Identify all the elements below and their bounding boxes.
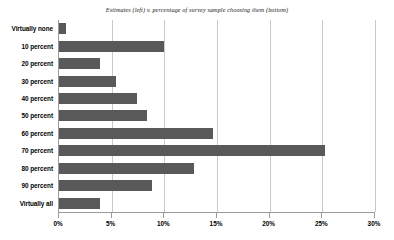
x-axis-tick (321, 213, 322, 218)
x-axis-tick (163, 213, 164, 218)
x-axis-label: 0% (43, 220, 73, 227)
y-axis-label: Virtually all (0, 195, 53, 212)
y-axis-label: 80 percent (0, 160, 53, 177)
y-axis-label: Virtually none (0, 20, 53, 37)
bar-row (59, 195, 375, 212)
bar (59, 110, 147, 121)
plot-area (58, 20, 375, 213)
bar (59, 128, 213, 139)
y-axis-label: 50 percent (0, 107, 53, 124)
y-axis-label: 20 percent (0, 55, 53, 72)
gridline (375, 20, 376, 212)
bar-row (59, 90, 375, 107)
bar-row (59, 72, 375, 89)
bar-chart: Estimates (left) v. percentage of survey… (0, 0, 394, 240)
x-axis-tick (216, 213, 217, 218)
bar (59, 145, 325, 156)
x-axis-label: 10% (148, 220, 178, 227)
x-axis-label: 5% (96, 220, 126, 227)
bar (59, 58, 100, 69)
bar (59, 41, 164, 52)
y-axis-label: 40 percent (0, 90, 53, 107)
y-axis-category-labels: Virtually none10 percent20 percent30 per… (0, 20, 53, 212)
bar-row (59, 20, 375, 37)
bar (59, 76, 116, 87)
y-axis-label: 90 percent (0, 177, 53, 194)
bar (59, 23, 66, 34)
bar-row (59, 177, 375, 194)
y-axis-label: 60 percent (0, 125, 53, 142)
x-axis-label: 30% (359, 220, 389, 227)
bar-row (59, 160, 375, 177)
bar-row (59, 125, 375, 142)
x-axis-label: 25% (306, 220, 336, 227)
x-axis-tick (269, 213, 270, 218)
bar (59, 180, 152, 191)
bar (59, 93, 137, 104)
y-axis-label: 10 percent (0, 37, 53, 54)
bar-series (59, 20, 375, 212)
y-axis-label: 30 percent (0, 72, 53, 89)
bar-row (59, 142, 375, 159)
x-axis-tick (58, 213, 59, 218)
x-axis-label: 15% (201, 220, 231, 227)
bar-row (59, 55, 375, 72)
chart-title: Estimates (left) v. percentage of survey… (0, 5, 394, 14)
x-axis-tick (374, 213, 375, 218)
y-axis-label: 70 percent (0, 142, 53, 159)
bar-row (59, 37, 375, 54)
bar (59, 198, 100, 209)
x-axis-label: 20% (254, 220, 284, 227)
bar (59, 163, 194, 174)
bar-row (59, 107, 375, 124)
x-axis-tick (111, 213, 112, 218)
